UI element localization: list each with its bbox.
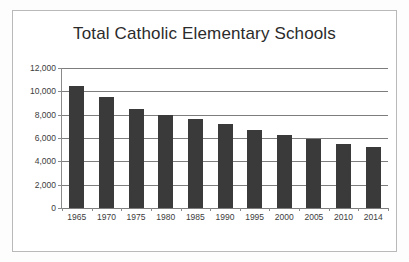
y-axis-tick-label: 0 [0,203,56,213]
x-axis-tick [240,208,241,211]
x-axis-tick-label: 2014 [353,212,393,222]
bar [129,109,144,208]
bar [277,135,292,209]
chart-figure: Total Catholic Elementary Schools 02,000… [0,0,409,262]
x-axis-tick [358,208,359,211]
x-axis-tick [92,208,93,211]
x-axis-labels: 1965197019751980198519901995200020052010… [62,212,388,228]
bar [69,86,84,209]
bar [158,115,173,208]
bar [306,139,321,208]
y-axis-tick-label: 8,000 [0,110,56,120]
x-axis-tick [181,208,182,211]
x-axis-tick [269,208,270,211]
bar-series [62,68,388,208]
bar [188,119,203,208]
bar [336,144,351,208]
x-axis-tick [62,208,63,211]
bar [218,124,233,208]
x-axis-tick [329,208,330,211]
x-axis-tick [210,208,211,211]
gridline [62,208,388,209]
y-axis-tick-label: 10,000 [0,86,56,96]
x-axis-tick [299,208,300,211]
y-axis-labels: 02,0004,0006,0008,00010,00012,000 [0,68,56,208]
chart-title: Total Catholic Elementary Schools [0,24,409,44]
bar [366,147,381,208]
x-axis-tick [121,208,122,211]
bar [99,97,114,208]
y-axis-tick-label: 2,000 [0,180,56,190]
y-axis-tick-label: 12,000 [0,63,56,73]
y-axis-tick-label: 6,000 [0,133,56,143]
x-axis-tick [151,208,152,211]
y-axis-tick-label: 4,000 [0,156,56,166]
x-axis-tick [388,208,389,211]
bar [247,130,262,208]
